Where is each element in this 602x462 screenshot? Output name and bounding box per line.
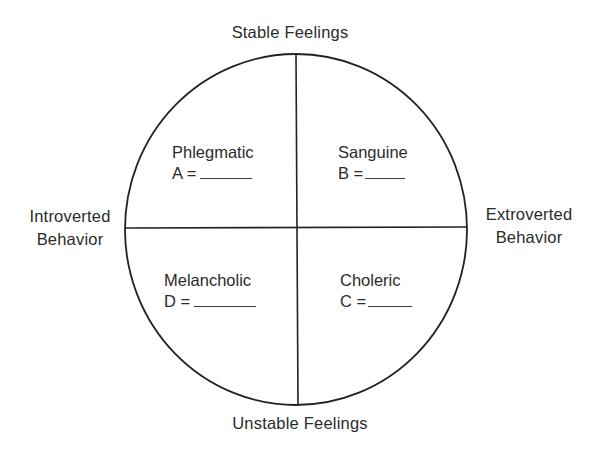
axis-label-bottom: Unstable Feelings (225, 413, 375, 433)
score-row: B = (338, 163, 408, 184)
axis-label-left-line2: Behavior (18, 229, 122, 249)
score-blank-b[interactable] (365, 164, 405, 179)
score-letter: B = (338, 164, 363, 182)
score-letter: D = (164, 292, 190, 310)
axis-label-right-line1: Extroverted (476, 204, 582, 224)
quadrant-name: Sanguine (338, 142, 408, 163)
quadrant-choleric: Choleric C = (340, 270, 412, 312)
score-blank-c[interactable] (368, 292, 412, 307)
score-letter: C = (340, 292, 366, 310)
score-row: A = (172, 163, 254, 184)
vertical-axis-line (296, 54, 298, 405)
score-letter: A = (172, 164, 196, 182)
quadrant-name: Choleric (340, 270, 412, 291)
axis-label-right-line2: Behavior (476, 227, 582, 247)
axis-label-left-line1: Introverted (18, 206, 122, 226)
score-row: C = (340, 291, 412, 312)
score-row: D = (164, 291, 256, 312)
quadrant-name: Phlegmatic (172, 142, 254, 163)
axis-label-top: Stable Feelings (226, 22, 354, 42)
horizontal-axis-line (125, 227, 467, 228)
score-blank-a[interactable] (200, 164, 252, 179)
quadrant-phlegmatic: Phlegmatic A = (172, 142, 254, 184)
temperament-diagram: Stable Feelings Unstable Feelings Introv… (0, 0, 602, 462)
quadrant-melancholic: Melancholic D = (164, 270, 256, 312)
quadrant-name: Melancholic (164, 270, 256, 291)
score-blank-d[interactable] (194, 292, 256, 307)
quadrant-sanguine: Sanguine B = (338, 142, 408, 184)
